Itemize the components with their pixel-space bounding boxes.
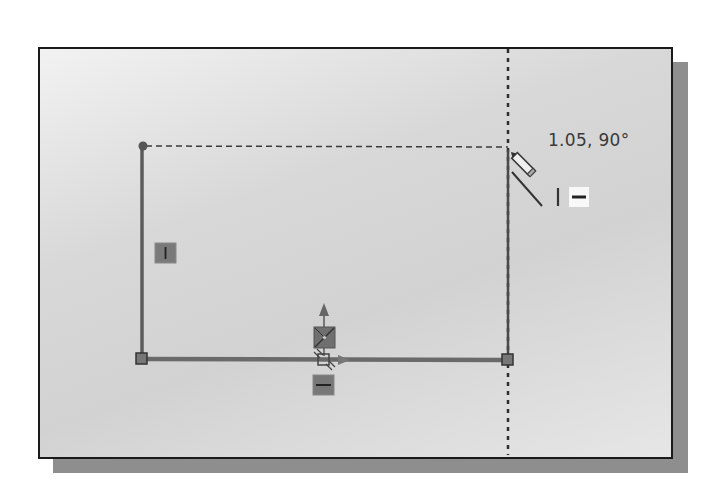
vertical-relation-badge[interactable]: [155, 243, 176, 263]
bottom-horizontal-line[interactable]: [142, 359, 506, 360]
right-arrow-icon: [338, 355, 350, 365]
cursor-horizontal-inference-icon: [569, 187, 589, 207]
endpoint-bottom-left[interactable]: [136, 353, 147, 364]
parallel-inference-icon: [512, 172, 542, 206]
cursor-readout: 1.05, 90°: [548, 130, 630, 150]
pencil-cursor-icon: [508, 149, 542, 206]
endpoint-bottom-right[interactable]: [502, 354, 513, 365]
horizontal-inference-line: [146, 146, 508, 147]
start-point[interactable]: [139, 142, 148, 151]
sketch-canvas[interactable]: [0, 0, 720, 501]
up-arrow-icon: [319, 303, 329, 316]
horizontal-relation-badge[interactable]: [313, 375, 334, 395]
